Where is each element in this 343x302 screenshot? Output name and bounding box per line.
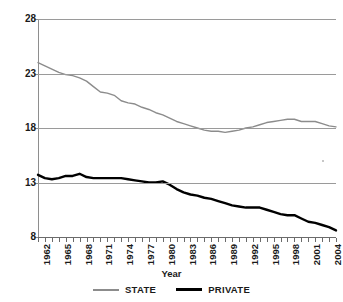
x-axis-tick xyxy=(80,238,81,242)
x-axis-tick xyxy=(52,238,53,242)
x-axis-tick-label: 1986 xyxy=(208,244,218,265)
x-axis-tick xyxy=(135,238,136,242)
x-axis-tick xyxy=(336,238,337,242)
x-axis-tick xyxy=(211,238,212,242)
x-axis-tick xyxy=(253,238,254,242)
x-axis-tick xyxy=(93,238,94,242)
x-axis-tick xyxy=(308,238,309,242)
x-axis-tick xyxy=(184,238,185,242)
x-axis-tick xyxy=(301,238,302,242)
y-axis-tick-label: 18 xyxy=(8,123,36,133)
grid-line xyxy=(38,74,336,75)
legend-swatch-icon xyxy=(93,289,119,291)
x-axis-tick xyxy=(142,238,143,242)
x-axis-tick-label: 1977 xyxy=(146,244,156,265)
x-axis-tick xyxy=(329,238,330,242)
x-axis-tick xyxy=(170,238,171,242)
x-axis-tick-label: 1974 xyxy=(125,244,135,265)
x-axis-tick xyxy=(149,238,150,242)
grid-line xyxy=(38,128,336,129)
x-axis-tick xyxy=(197,238,198,242)
x-axis-line xyxy=(38,237,336,238)
x-axis-tick xyxy=(156,238,157,242)
x-axis-tick xyxy=(322,238,323,242)
x-axis-tick xyxy=(87,238,88,242)
clipped-title-sliver xyxy=(0,0,343,4)
x-axis-tick xyxy=(218,238,219,242)
legend-label: PRIVATE xyxy=(208,284,250,295)
x-axis-tick xyxy=(73,238,74,242)
x-axis-tick xyxy=(128,238,129,242)
legend-swatch-icon xyxy=(176,288,202,291)
legend-item-private[interactable]: PRIVATE xyxy=(176,284,250,295)
x-axis-tick xyxy=(315,238,316,242)
grid-line xyxy=(38,183,336,184)
x-axis-tick xyxy=(66,238,67,242)
x-axis-tick-label: 1965 xyxy=(63,244,73,265)
x-axis-tick-label: 1983 xyxy=(188,244,198,265)
x-axis-tick-label: 1980 xyxy=(167,244,177,265)
x-axis-title: Year xyxy=(0,268,343,279)
x-axis-tick-label: 1968 xyxy=(84,244,94,265)
x-axis-tick-label: 1995 xyxy=(271,244,281,265)
x-axis-tick xyxy=(38,238,39,242)
x-axis-tick xyxy=(239,238,240,242)
x-axis-tick-label: 1992 xyxy=(250,244,260,265)
legend-item-state[interactable]: STATE xyxy=(93,284,156,295)
x-axis-tick xyxy=(204,238,205,242)
x-axis-tick xyxy=(267,238,268,242)
x-axis-tick xyxy=(294,238,295,242)
x-axis-tick xyxy=(59,238,60,242)
x-axis-tick-label: 1998 xyxy=(291,244,301,265)
x-axis-tick xyxy=(114,238,115,242)
y-axis-tick-label: 28 xyxy=(8,14,36,24)
line-chart: 282318138 196219651968197119741977198019… xyxy=(0,0,343,302)
x-axis-tick xyxy=(121,238,122,242)
plot-area xyxy=(38,19,336,237)
x-axis-tick xyxy=(281,238,282,242)
x-axis-tick xyxy=(163,238,164,242)
x-axis-tick-label: 1989 xyxy=(229,244,239,265)
x-axis-tick xyxy=(177,238,178,242)
x-axis-tick xyxy=(100,238,101,242)
chart-legend: STATEPRIVATE xyxy=(0,284,343,295)
x-axis-tick-label: 2001 xyxy=(312,244,322,265)
image-artifact-speck xyxy=(322,160,324,162)
x-axis-tick-label: 1971 xyxy=(104,244,114,265)
x-axis-tick xyxy=(225,238,226,242)
y-axis-tick-label: 23 xyxy=(8,69,36,79)
y-axis-tick-label: 8 xyxy=(8,232,36,242)
x-axis-tick xyxy=(45,238,46,242)
x-axis-tick xyxy=(260,238,261,242)
x-axis-tick xyxy=(107,238,108,242)
legend-label: STATE xyxy=(125,284,156,295)
x-axis-tick xyxy=(246,238,247,242)
x-axis-tick xyxy=(190,238,191,242)
x-axis-tick-label: 1962 xyxy=(42,244,52,265)
x-axis-tick xyxy=(287,238,288,242)
y-axis-tick-label: 13 xyxy=(8,178,36,188)
x-axis-tick-label: 2004 xyxy=(333,244,343,265)
x-axis-tick xyxy=(232,238,233,242)
grid-line xyxy=(38,19,336,20)
x-axis-tick xyxy=(274,238,275,242)
